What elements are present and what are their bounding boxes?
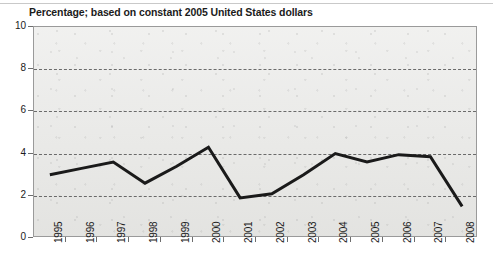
x-tick-label-2000: 2000 (211, 222, 222, 243)
x-tick-mark-1996 (65, 237, 66, 242)
x-tick-label-2002: 2002 (275, 222, 286, 243)
x-tick-label-1998: 1998 (148, 222, 159, 243)
x-tick-mark-1997 (96, 237, 97, 242)
x-tick-mark-2006 (382, 237, 383, 242)
x-tick-label-2003: 2003 (307, 222, 318, 243)
x-tick-mark-2005 (350, 237, 351, 242)
plot-area (33, 26, 477, 237)
x-tick-mark-2007 (414, 237, 415, 242)
x-tick-mark-1999 (160, 237, 161, 242)
y-tick-label-2: 2 (0, 189, 26, 200)
x-tick-label-2001: 2001 (243, 222, 254, 243)
x-tick-label-1995: 1995 (53, 222, 64, 243)
y-tick-mark-0 (28, 237, 33, 238)
x-tick-label-2005: 2005 (370, 222, 381, 243)
x-tick-label-2004: 2004 (338, 222, 349, 243)
y-tick-label-4: 4 (0, 147, 26, 158)
x-tick-label-1996: 1996 (85, 222, 96, 243)
y-tick-label-10: 10 (0, 20, 26, 31)
x-tick-label-1999: 1999 (180, 222, 191, 243)
chart-title: Percentage; based on constant 2005 Unite… (29, 6, 313, 18)
x-tick-label-1997: 1997 (116, 222, 127, 243)
chart-screenshot: Percentage; based on constant 2005 Unite… (0, 0, 493, 271)
y-tick-label-6: 6 (0, 104, 26, 115)
y-tick-label-0: 0 (0, 231, 26, 242)
x-tick-mark-2003 (287, 237, 288, 242)
x-tick-mark-2000 (192, 237, 193, 242)
x-tick-mark-1998 (128, 237, 129, 242)
x-tick-label-2008: 2008 (465, 222, 476, 243)
x-tick-label-2006: 2006 (402, 222, 413, 243)
x-tick-mark-2002 (255, 237, 256, 242)
x-tick-mark-2008 (445, 237, 446, 242)
x-tick-mark-2004 (318, 237, 319, 242)
data-series-line (34, 27, 477, 237)
y-tick-label-8: 8 (0, 62, 26, 73)
x-tick-label-2007: 2007 (433, 222, 444, 243)
x-tick-mark-2001 (223, 237, 224, 242)
top-divider (0, 3, 493, 4)
